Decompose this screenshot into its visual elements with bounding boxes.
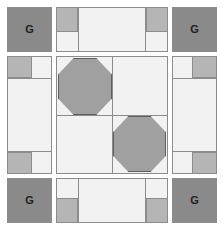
edge-block-right <box>172 56 217 174</box>
edge-block-right-nub-top-right <box>192 56 217 78</box>
edge-block-bottom-seam-left <box>78 179 79 222</box>
edge-block-bottom-nub-bottom-right <box>146 198 168 223</box>
edge-block-right-nub-bottom-right <box>192 152 217 174</box>
edge-block-left-seam-bottom <box>8 151 51 152</box>
corner-block-label: G <box>25 195 34 206</box>
edge-block-top-nub-top-right <box>146 7 168 32</box>
octagon-shape-top-left <box>58 58 112 115</box>
center-quadrant-top-left <box>57 57 113 116</box>
edge-block-top <box>56 7 168 52</box>
corner-block-bottom-left: G <box>7 178 52 223</box>
edge-block-bottom-seam-right <box>145 179 146 222</box>
edge-block-top-nub-top-left <box>56 7 78 32</box>
edge-block-right-seam-bottom <box>173 151 216 152</box>
edge-block-bottom-nub-bottom-left <box>56 198 78 223</box>
corner-block-top-right: G <box>172 7 217 52</box>
corner-block-label: G <box>25 24 34 35</box>
quilt-diagram: G G G <box>0 0 224 230</box>
corner-block-top-left: G <box>7 7 52 52</box>
corner-block-bottom-right: G <box>172 178 217 223</box>
edge-block-top-seam-left <box>78 8 79 51</box>
edge-block-left-nub-bottom-left <box>7 152 32 174</box>
edge-block-left <box>7 56 52 174</box>
octagon-shape-bottom-right <box>113 116 166 172</box>
edge-block-bottom <box>56 178 168 223</box>
center-block-seam-vertical <box>112 57 113 173</box>
edge-block-left-nub-top-left <box>7 56 32 78</box>
edge-block-left-seam-top <box>8 78 51 79</box>
corner-block-label: G <box>190 195 199 206</box>
edge-block-top-seam-right <box>145 8 146 51</box>
edge-block-right-seam-top <box>173 78 216 79</box>
center-quadrant-bottom-right <box>113 116 167 173</box>
center-quadrant-top-right <box>113 57 167 116</box>
corner-block-label: G <box>190 24 199 35</box>
center-quadrant-bottom-left <box>57 116 113 173</box>
center-block <box>56 56 168 174</box>
